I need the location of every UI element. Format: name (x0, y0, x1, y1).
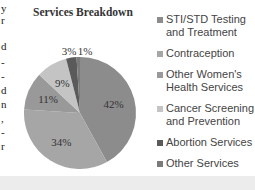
slice-label: 11% (38, 93, 58, 105)
pie-chart: 42%34%11%9%3%1% (0, 0, 155, 176)
legend-swatch (157, 161, 163, 167)
legend-item: Abortion Services (155, 136, 255, 149)
legend-item: Cancer Screeningand Prevention (155, 102, 255, 128)
legend-swatch (157, 17, 163, 23)
legend-swatch (157, 51, 163, 57)
legend-label: Abortion Services (166, 136, 252, 149)
slice-label: 1% (78, 45, 93, 57)
page-footer-band (0, 176, 255, 190)
legend-swatch (157, 140, 163, 146)
legend-item: Contraception (155, 47, 255, 60)
slice-label: 3% (62, 45, 77, 57)
legend-label: Contraception (166, 47, 235, 60)
legend-swatch (157, 106, 163, 112)
slice-label: 34% (51, 136, 71, 148)
legend-item: Other Women'sHealth Services (155, 68, 255, 94)
legend-label: STI/STD Testingand Treatment (166, 13, 246, 39)
legend-label: Cancer Screeningand Prevention (166, 102, 254, 128)
slice-label: 42% (104, 98, 124, 110)
chart-legend: STI/STD Testingand Treatment Contracepti… (155, 13, 255, 178)
legend-swatch (157, 72, 163, 78)
legend-label: Other Services (166, 157, 239, 170)
legend-item: Other Services (155, 157, 255, 170)
legend-label: Other Women'sHealth Services (166, 68, 243, 94)
slice-label: 9% (55, 77, 70, 89)
legend-item: STI/STD Testingand Treatment (155, 13, 255, 39)
